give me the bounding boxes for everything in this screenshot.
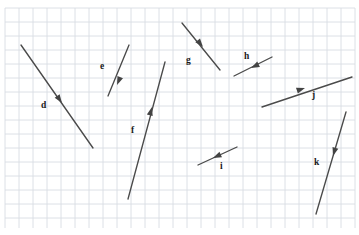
vector-label-j: j: [312, 91, 315, 101]
vector-shaft-e: [108, 45, 129, 96]
vector-label-f: f: [131, 126, 134, 136]
vector-label-k: k: [314, 158, 319, 168]
vector-arrows-layer: [0, 0, 359, 235]
vector-label-g: g: [186, 56, 191, 66]
vector-label-d: d: [41, 101, 46, 111]
vector-arrowhead-i: [213, 152, 222, 158]
vector-label-h: h: [244, 52, 249, 62]
vector-arrow-k: [316, 112, 346, 214]
vector-arrow-h: [234, 57, 272, 76]
vector-arrowhead-e: [117, 76, 123, 85]
vector-arrow-e: [108, 45, 129, 96]
vector-diagram-canvas: defghijk: [0, 0, 359, 235]
vector-arrow-d: [21, 45, 93, 148]
vector-label-i: i: [220, 162, 223, 172]
vector-shaft-k: [316, 112, 346, 214]
vector-arrowhead-k: [333, 147, 339, 156]
vector-shaft-j: [262, 77, 352, 107]
vector-arrow-j: [262, 77, 352, 107]
vector-arrowhead-f: [147, 107, 153, 116]
vector-label-e: e: [100, 62, 104, 72]
vector-arrowhead-h: [251, 62, 260, 68]
vector-arrowhead-g: [195, 39, 203, 47]
vector-arrow-i: [198, 147, 237, 165]
